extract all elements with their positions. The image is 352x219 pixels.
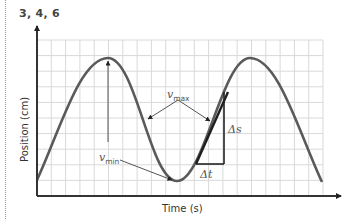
position-time-graph: vmax vmin Δs Δt Time (s) Position (cm): [0, 0, 352, 219]
delta-s-label: Δs: [227, 123, 242, 136]
x-axis-label: Time (s): [161, 203, 203, 214]
vmin-label: vmin: [99, 151, 120, 166]
grid: [37, 40, 323, 196]
delta-t-label: Δt: [199, 168, 213, 181]
y-axis-label: Position (cm): [19, 97, 30, 162]
vmax-label: vmax: [167, 88, 190, 103]
